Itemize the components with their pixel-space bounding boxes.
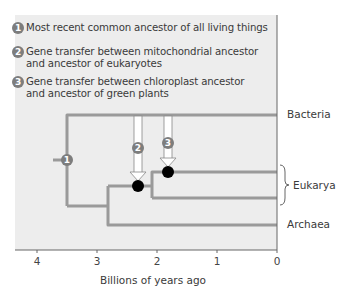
tick-label-0: 0 — [274, 255, 281, 267]
tick-label-2: 2 — [154, 255, 161, 267]
tick-label-1: 1 — [214, 255, 221, 267]
chloroplast-node — [162, 166, 174, 178]
tick-label-4: 4 — [34, 255, 41, 267]
chloroplast-marker-3: 3 — [162, 137, 174, 149]
root-marker-1: 1 — [61, 154, 73, 166]
archaea-branch — [108, 186, 277, 225]
label-eukarya: Eukarya — [293, 179, 336, 191]
axis-title: Billions of years ago — [100, 274, 206, 286]
mitochondrial-node — [132, 180, 144, 192]
tick-label-3: 3 — [94, 255, 101, 267]
mitochondrial-marker-2: 2 — [132, 142, 144, 154]
label-bacteria: Bacteria — [287, 108, 331, 120]
eukarya-brace — [280, 165, 289, 205]
phylogenetic-tree — [0, 0, 347, 294]
label-archaea: Archaea — [287, 218, 330, 230]
